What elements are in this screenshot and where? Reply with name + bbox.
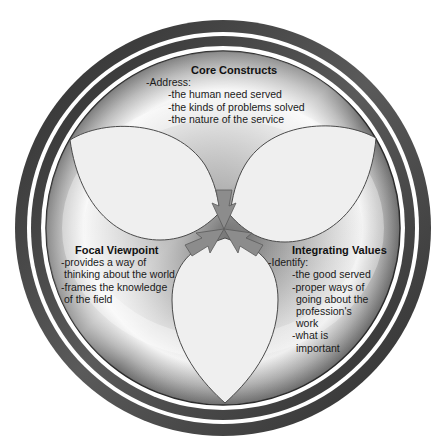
focal-viewpoint-item: -frames the knowledge — [61, 281, 175, 293]
core-constructs-title: Core Constructs — [146, 64, 305, 76]
integrating-values-item: profession's — [268, 305, 387, 317]
core-constructs-item: -the kinds of problems solved — [146, 101, 305, 113]
integrating-values-item: going about the — [268, 293, 387, 305]
focal-viewpoint-block: Focal Viewpoint -provides a way of think… — [61, 244, 175, 305]
integrating-values-item: -what is — [268, 329, 387, 341]
core-constructs-item: -the human need served — [146, 88, 305, 100]
integrating-values-item: important — [268, 342, 387, 354]
integrating-values-block: Integrating Values -Identify: -the good … — [268, 244, 387, 354]
integrating-values-title: Integrating Values — [268, 244, 387, 256]
focal-viewpoint-item: thinking about the world — [61, 268, 175, 280]
focal-viewpoint-item: -provides a way of — [61, 256, 175, 268]
focal-viewpoint-title: Focal Viewpoint — [61, 244, 175, 256]
core-constructs-block: Core Constructs -Address: -the human nee… — [146, 64, 305, 125]
core-constructs-item: -the nature of the service — [146, 113, 305, 125]
integrating-values-item: -proper ways of — [268, 281, 387, 293]
integrating-values-item: -the good served — [268, 268, 387, 280]
diagram-canvas: Core Constructs -Address: -the human nee… — [0, 0, 447, 444]
integrating-values-item: work — [268, 317, 387, 329]
integrating-values-lead: -Identify: — [268, 256, 387, 268]
focal-viewpoint-item: of the field — [61, 293, 175, 305]
core-constructs-lead: -Address: — [146, 76, 305, 88]
